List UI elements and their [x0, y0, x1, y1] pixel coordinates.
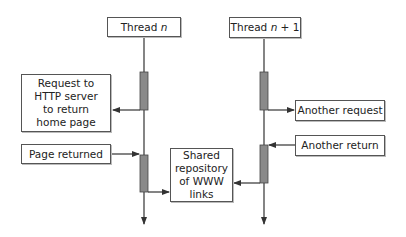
repo-line-3: of WWW: [179, 175, 224, 188]
thread-n1-activation-2: [260, 145, 268, 183]
repo-line-4: links: [189, 188, 213, 201]
thread-n1-activation-1: [260, 72, 268, 110]
thread-n1-label-var: n: [271, 21, 278, 34]
thread-n-label-prefix: Thread: [121, 21, 161, 34]
request-line-1: Request to: [38, 77, 95, 90]
request-line-2: HTTP server: [34, 90, 97, 103]
another-return-label: Another return: [301, 139, 378, 152]
page-returned-label: Page returned: [29, 148, 103, 161]
thread-n-activation-2: [140, 155, 148, 192]
thread-n1-label-suffix: + 1: [277, 21, 299, 34]
thread-n-label-var: n: [161, 21, 168, 34]
repo-line-2: repository: [175, 162, 228, 175]
shared-repository-box: Shared repository of WWW links: [170, 148, 233, 202]
thread-n-header: Thread n: [107, 17, 181, 37]
thread-n1-label-prefix: Thread: [231, 21, 271, 34]
another-request-label: Another request: [297, 104, 382, 117]
thread-n1-header: Thread n + 1: [229, 17, 301, 38]
request-line-4: home page: [36, 116, 95, 129]
another-return-note: Another return: [295, 135, 385, 156]
page-returned-note: Page returned: [21, 144, 111, 164]
another-request-note: Another request: [295, 100, 385, 121]
request-line-3: to return: [43, 103, 89, 116]
thread-n-activation-1: [140, 72, 148, 110]
repo-line-1: Shared: [183, 149, 220, 162]
request-http-server-note: Request to HTTP server to return home pa…: [21, 74, 111, 132]
